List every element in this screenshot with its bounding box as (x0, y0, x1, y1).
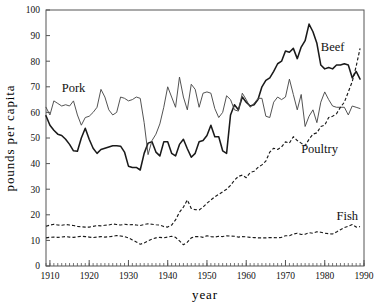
y-tick-label: 100 (26, 5, 41, 15)
x-tick-label: 1940 (158, 271, 177, 281)
y-axis-tick-labels: 0102030405060708090100 (26, 5, 41, 271)
x-tick-label: 1970 (276, 271, 295, 281)
x-tick-label: 1980 (315, 271, 334, 281)
y-tick-label: 60 (31, 108, 41, 118)
y-tick-label: 90 (31, 31, 41, 41)
y-tick-label: 50 (31, 133, 41, 143)
y-tick-label: 70 (31, 82, 41, 92)
series-line-fish (46, 225, 360, 245)
series-annotation-labels: PorkBeefPoultryFish (62, 40, 359, 223)
y-tick-label: 20 (31, 210, 41, 220)
meat-consumption-line-chart: 0102030405060708090100 19101920193019401… (0, 0, 377, 303)
annotation-beef: Beef (321, 40, 345, 54)
y-tick-label: 30 (31, 185, 41, 195)
annotation-pork: Pork (62, 81, 86, 95)
series-line-poultry (46, 48, 360, 227)
x-tick-label: 1910 (40, 271, 59, 281)
x-axis-title: year (192, 287, 218, 302)
x-tick-label: 1920 (80, 271, 99, 281)
x-axis-tick-labels: 191019201930194019501960197019801990 (40, 271, 373, 281)
data-series-group (46, 24, 360, 245)
annotation-fish: Fish (337, 209, 359, 223)
x-tick-label: 1930 (119, 271, 138, 281)
chart-page: 0102030405060708090100 19101920193019401… (0, 0, 377, 303)
annotation-poultry: Poultry (301, 142, 339, 156)
y-tick-label: 0 (35, 261, 40, 271)
y-axis-title: pounds per capita (2, 85, 17, 192)
y-tick-label: 10 (31, 236, 41, 246)
y-tick-label: 80 (31, 57, 41, 67)
x-tick-label: 1990 (355, 271, 374, 281)
x-tick-label: 1960 (237, 271, 256, 281)
x-tick-label: 1950 (197, 271, 216, 281)
y-axis-ticks (46, 10, 50, 266)
y-tick-label: 40 (31, 159, 41, 169)
